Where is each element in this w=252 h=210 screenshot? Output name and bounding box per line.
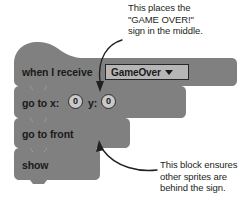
input-y-text: 0 xyxy=(106,97,111,106)
input-x-value[interactable]: 0 xyxy=(68,94,83,109)
dropdown-value: GameOver xyxy=(111,67,161,78)
block-label-show: show xyxy=(22,159,48,171)
annotation-bottom: This block ensures other sprites are beh… xyxy=(160,159,237,194)
input-x-text: 0 xyxy=(73,97,78,106)
annotation-top: This places the "GAME OVER!" sign in the… xyxy=(128,2,203,37)
block-label-go-to-x: go to x: xyxy=(22,97,59,109)
arrow-top-head xyxy=(96,81,104,92)
arrow-bottom-head xyxy=(96,140,104,152)
dropdown-message-selector[interactable]: GameOver xyxy=(105,64,189,80)
block-label-go-to-front: go to front xyxy=(22,128,73,140)
scratch-script-diagram: This places the "GAME OVER!" sign in the… xyxy=(0,0,252,210)
input-y-value[interactable]: 0 xyxy=(101,94,116,109)
block-label-go-to-y: y: xyxy=(88,97,97,109)
chevron-down-icon xyxy=(165,70,173,75)
block-label-when-i-receive: when I receive xyxy=(22,66,92,78)
arrow-bottom-path xyxy=(103,150,157,170)
